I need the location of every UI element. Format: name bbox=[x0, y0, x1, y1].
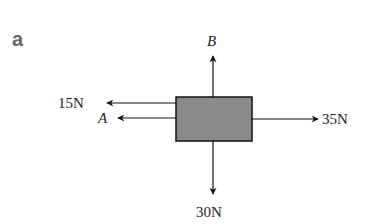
force-label-30n: 30N bbox=[196, 204, 222, 220]
force-diagram: a B 15N A 35N 30N bbox=[0, 0, 370, 224]
force-label-a: A bbox=[97, 110, 108, 126]
force-label-15n: 15N bbox=[58, 95, 84, 111]
block bbox=[176, 97, 252, 141]
panel-label: a bbox=[12, 28, 24, 50]
force-label-b: B bbox=[207, 33, 216, 49]
force-label-35n: 35N bbox=[322, 111, 348, 127]
